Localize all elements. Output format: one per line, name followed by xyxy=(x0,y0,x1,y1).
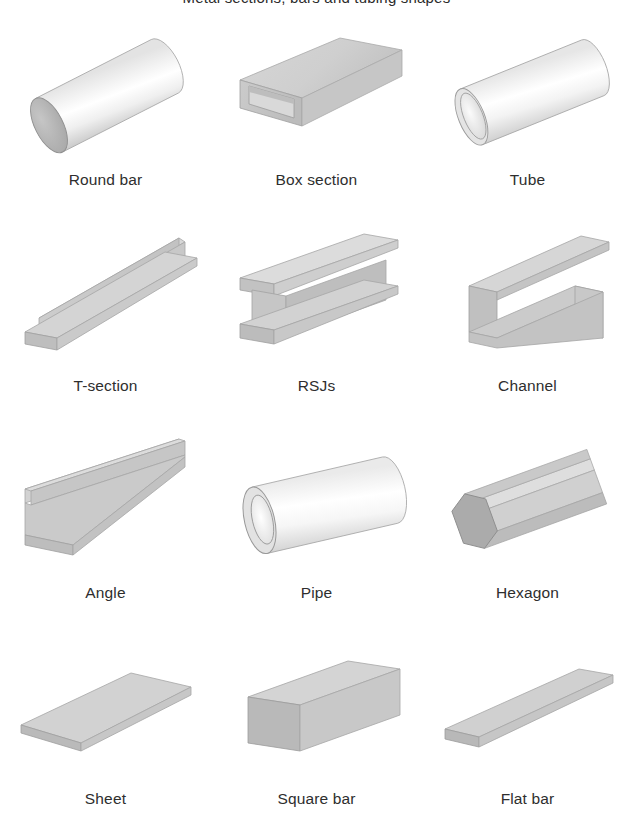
figure-item-pipe: Pipe xyxy=(211,427,422,633)
figure-item-square-bar: Square bar xyxy=(211,633,422,839)
sheet-illustration xyxy=(11,633,201,788)
figure-item-label: Round bar xyxy=(69,171,143,189)
round-bar-illustration xyxy=(11,14,201,169)
figure-item-channel: Channel xyxy=(422,220,633,426)
figure-item-label: Flat bar xyxy=(501,790,555,808)
figure-item-label: Channel xyxy=(498,377,557,395)
cut-off-figure-caption: Metal sections, bars and tubing shapes xyxy=(0,0,633,6)
shapes-grid: Round bar xyxy=(0,14,633,839)
angle-illustration xyxy=(11,427,201,582)
figure-item-label: T-section xyxy=(73,377,137,395)
square-bar-illustration xyxy=(222,633,412,788)
figure-item-label: Angle xyxy=(85,584,125,602)
tube-illustration xyxy=(433,14,623,169)
figure-item-label: Tube xyxy=(510,171,545,189)
figure-item-box-section: Box section xyxy=(211,14,422,220)
figure-item-label: Sheet xyxy=(85,790,126,808)
figure-item-label: Square bar xyxy=(277,790,355,808)
rsjs-illustration xyxy=(222,220,412,375)
pipe-illustration xyxy=(222,427,412,582)
t-section-illustration xyxy=(11,220,201,375)
figure-item-hexagon: Hexagon xyxy=(422,427,633,633)
box-section-illustration xyxy=(222,14,412,169)
figure-item-label: Hexagon xyxy=(496,584,559,602)
figure-item-rsjs: RSJs xyxy=(211,220,422,426)
figure-item-t-section: T-section xyxy=(0,220,211,426)
figure-item-angle: Angle xyxy=(0,427,211,633)
figure-item-tube: Tube xyxy=(422,14,633,220)
figure-item-label: Pipe xyxy=(301,584,333,602)
figure-item-label: Box section xyxy=(276,171,358,189)
figure-item-label: RSJs xyxy=(298,377,336,395)
flat-bar-illustration xyxy=(433,633,623,788)
channel-illustration xyxy=(433,220,623,375)
figure-item-sheet: Sheet xyxy=(0,633,211,839)
figure-item-flat-bar: Flat bar xyxy=(422,633,633,839)
figure-item-round-bar: Round bar xyxy=(0,14,211,220)
hexagon-illustration xyxy=(433,427,623,582)
metal-sections-figure: Metal sections, bars and tubing shapes xyxy=(0,0,633,839)
